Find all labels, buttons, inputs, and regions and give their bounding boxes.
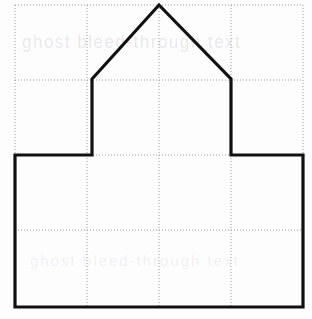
figure-container: ghost bleed-through text ghost bleed-thr… — [0, 0, 312, 319]
figure-svg — [0, 0, 312, 319]
